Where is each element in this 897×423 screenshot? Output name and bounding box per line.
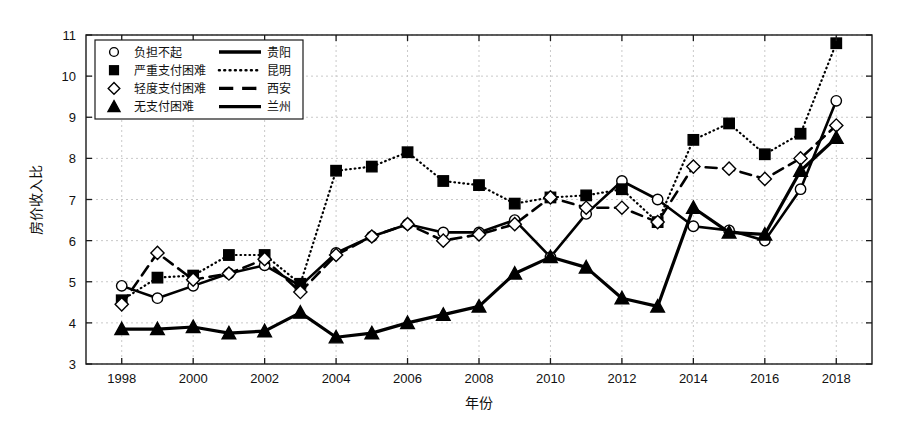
x-axis-tick-label: 2012 <box>607 371 636 386</box>
legend-series-name: 昆明 <box>267 64 291 78</box>
data-point-marker-square <box>152 272 162 282</box>
legend-marker-label: 无支付困难 <box>134 100 194 114</box>
legend-series-name: 兰州 <box>267 100 291 114</box>
y-axis-tick-label: 7 <box>69 193 76 208</box>
y-axis-tick-label: 3 <box>69 357 76 372</box>
x-axis-tick-label: 1998 <box>107 371 136 386</box>
data-point-marker-square <box>474 180 484 190</box>
data-point-marker-circle <box>117 281 127 291</box>
data-point-marker-square <box>581 190 591 200</box>
y-axis-title: 房价收入比 <box>28 165 44 235</box>
x-axis-tick-label: 2014 <box>679 371 708 386</box>
data-point-marker-circle <box>152 293 162 303</box>
x-axis-tick-label: 2018 <box>822 371 851 386</box>
y-axis-tick-label: 4 <box>69 316 76 331</box>
data-point-marker-square <box>724 118 734 128</box>
x-axis-tick-label: 2016 <box>750 371 779 386</box>
line-chart-svg: 3456789101119982000200220042006200820102… <box>0 0 897 423</box>
legend-series-name: 贵阳 <box>267 46 291 60</box>
chart-legend: 负担不起贵阳严重支付困难昆明轻度支付困难西安无支付困难兰州 <box>95 40 303 119</box>
data-point-marker-square <box>224 250 234 260</box>
x-axis-tick-label: 2002 <box>250 371 279 386</box>
x-axis-tick-label: 2000 <box>179 371 208 386</box>
data-point-marker-circle <box>688 221 698 231</box>
y-axis-tick-label: 10 <box>62 69 76 84</box>
x-axis-tick-label: 2008 <box>465 371 494 386</box>
data-point-marker-square <box>795 129 805 139</box>
data-point-marker-square <box>331 166 341 176</box>
data-point-marker-square <box>617 184 627 194</box>
x-axis-title: 年份 <box>465 395 493 411</box>
legend-marker-label: 轻度支付困难 <box>134 81 206 96</box>
data-point-marker-square <box>510 198 520 208</box>
data-point-marker-square <box>688 135 698 145</box>
data-point-marker-square <box>110 66 119 75</box>
legend-marker-label: 负担不起 <box>134 46 182 60</box>
x-axis-tick-label: 2010 <box>536 371 565 386</box>
data-point-marker-square <box>367 161 377 171</box>
y-axis-tick-label: 6 <box>69 234 76 249</box>
data-point-marker-square <box>438 176 448 186</box>
x-axis-tick-label: 2006 <box>393 371 422 386</box>
data-point-marker-square <box>402 147 412 157</box>
chart-figure: 3456789101119982000200220042006200820102… <box>0 0 897 423</box>
legend-series-name: 西安 <box>267 81 291 96</box>
y-axis-tick-label: 11 <box>63 28 77 43</box>
x-axis-tick-label: 2004 <box>322 371 351 386</box>
y-axis-tick-label: 5 <box>69 275 76 290</box>
legend-marker-label: 严重支付困难 <box>134 64 206 78</box>
data-point-marker-square <box>760 149 770 159</box>
data-point-marker-circle <box>795 184 805 194</box>
y-axis-tick-label: 8 <box>69 151 76 166</box>
y-axis-tick-label: 9 <box>69 110 76 125</box>
data-point-marker-circle <box>831 96 841 106</box>
data-point-marker-circle <box>652 194 662 204</box>
data-point-marker-circle <box>110 48 119 57</box>
